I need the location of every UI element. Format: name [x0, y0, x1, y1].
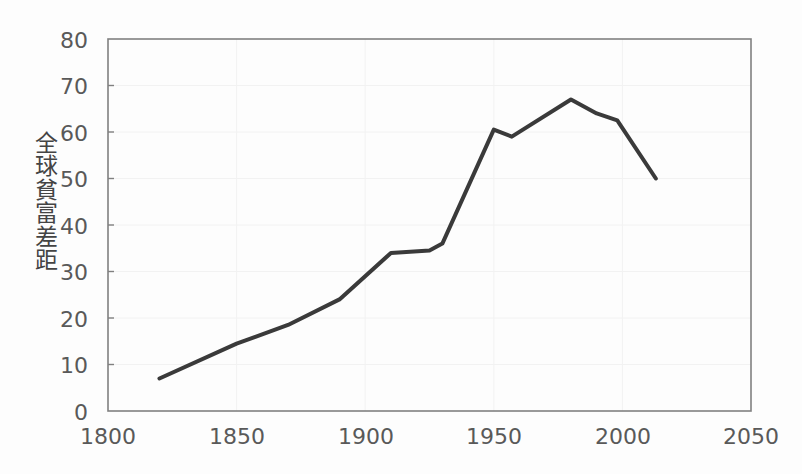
data-series-group	[159, 99, 655, 378]
data-line	[159, 99, 655, 378]
plot-area	[0, 0, 802, 474]
chart-figure: 全 球 貧 富 差 距 80 70 60 50 40 30 20 10 0 18…	[0, 0, 802, 474]
gridlines	[108, 39, 751, 411]
